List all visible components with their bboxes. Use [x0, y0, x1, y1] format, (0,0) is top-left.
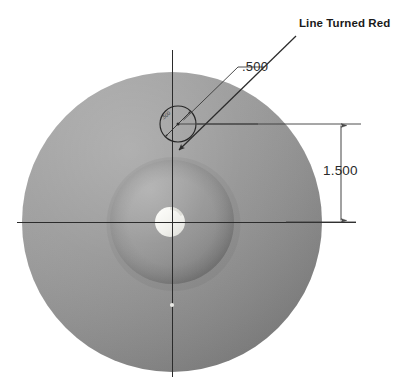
cad-drawing-svg: [0, 0, 393, 389]
small-hole-center-point: [177, 123, 180, 126]
axis-marker-dot: [170, 303, 174, 307]
cad-drawing-canvas: Line Turned Red .500 1.500 .500: [0, 0, 393, 389]
